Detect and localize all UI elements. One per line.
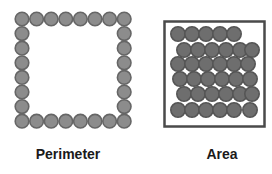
perimeter-circle [30,12,44,26]
area-circle [227,103,241,117]
area-label: Area [192,146,252,162]
perimeter-circle [88,114,102,128]
area-circle [173,72,187,86]
perimeter-circle [15,100,29,114]
area-circle [199,27,213,41]
area-circle [201,72,215,86]
area-circle [213,27,227,41]
perimeter-circle [117,85,131,99]
area-circle [245,87,259,101]
area-circle [199,57,213,71]
perimeter-circle [15,71,29,85]
area-circle [171,57,185,71]
area-circle [185,57,199,71]
area-circle [219,43,233,57]
perimeter-circle [44,114,58,128]
area-circle [243,72,257,86]
perimeter-circle [88,12,102,26]
perimeter-circle [117,56,131,70]
perimeter-circle [15,12,29,26]
perimeter-circle [74,12,88,26]
perimeter-circle [117,27,131,41]
perimeter-circle [15,27,29,41]
area-circle [177,43,191,57]
area-circle [213,57,227,71]
area-filled-circles [171,27,259,117]
area-circle [205,43,219,57]
area-circle [227,57,241,71]
perimeter-circle [117,71,131,85]
perimeter-circle [103,12,117,26]
perimeter-square-of-circles [15,12,131,128]
area-circle [191,87,205,101]
perimeter-circle [117,12,131,26]
perimeter-circle [103,114,117,128]
perimeter-circle [117,114,131,128]
perimeter-circle [59,12,73,26]
area-circle [205,87,219,101]
perimeter-label: Perimeter [28,146,108,162]
area-circle [229,72,243,86]
perimeter-circle [15,114,29,128]
area-circle [215,72,229,86]
area-circle [219,87,233,101]
area-circle [241,57,255,71]
area-circle [191,43,205,57]
perimeter-circle [44,12,58,26]
area-circle [171,27,185,41]
area-circle [185,103,199,117]
perimeter-circle [74,114,88,128]
perimeter-circle [59,114,73,128]
perimeter-circle [117,100,131,114]
area-circle [185,27,199,41]
perimeter-circle [15,56,29,70]
area-circle [199,103,213,117]
area-circle [243,103,257,117]
perimeter-circle [15,85,29,99]
perimeter-circle [15,41,29,55]
area-circle [245,43,259,57]
perimeter-circle [117,41,131,55]
area-circle [213,103,227,117]
area-circle [227,27,241,41]
perimeter-circle [30,114,44,128]
area-circle [171,103,185,117]
area-circle [177,87,191,101]
area-circle [187,72,201,86]
